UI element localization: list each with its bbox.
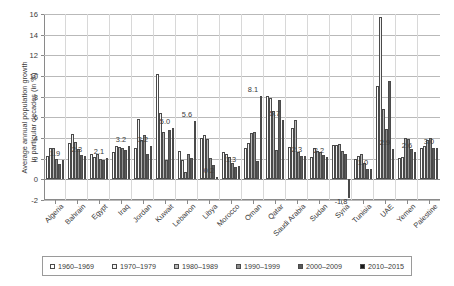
bar-groups: 1.92.32.13.23.25.05.60.21.38.15.72.32.2-… bbox=[44, 14, 440, 200]
bar-kuwait-2010–2015 bbox=[172, 128, 175, 180]
bars-container bbox=[352, 14, 374, 200]
legend-label: 2010–2015 bbox=[368, 262, 404, 271]
data-label-algeria: 1.9 bbox=[50, 149, 60, 158]
bar-jordan-2010–2015 bbox=[150, 146, 153, 179]
legend-label: 1970–1979 bbox=[120, 262, 156, 271]
data-label-tunisia: 1.0 bbox=[358, 158, 368, 167]
bar-cluster bbox=[178, 14, 197, 200]
bars-container bbox=[330, 14, 352, 200]
bar-saudi-arabia-2010–2015 bbox=[304, 156, 307, 180]
bar-cluster bbox=[288, 14, 307, 200]
x-label-oman: Oman bbox=[243, 202, 264, 223]
bar-libya-2010–2015 bbox=[216, 177, 219, 179]
bar-group-jordan: 3.2 bbox=[132, 14, 154, 200]
bars-container bbox=[374, 14, 396, 200]
bar-group-qatar: 5.7 bbox=[264, 14, 286, 200]
bar-cluster bbox=[420, 14, 439, 200]
legend-swatch-icon bbox=[360, 264, 365, 269]
bar-morocco-2010–2015 bbox=[238, 166, 241, 179]
legend-label: 1980–1989 bbox=[182, 262, 218, 271]
y-tick-label-0: 0 bbox=[34, 175, 38, 184]
chart-legend: 1960–19691970–19791980–19891990–19992000… bbox=[42, 256, 412, 276]
legend-item-1990–1999[interactable]: 1990–1999 bbox=[236, 262, 280, 271]
x-label-morocco: Morocco bbox=[215, 202, 241, 228]
x-label-tunisia: Tunisia bbox=[350, 202, 373, 225]
bar-group-libya: 0.2 bbox=[198, 14, 220, 200]
bar-group-egypt: 2.1 bbox=[88, 14, 110, 200]
data-label-jordan: 3.2 bbox=[138, 135, 148, 144]
legend-item-1960–1969[interactable]: 1960–1969 bbox=[50, 262, 94, 271]
y-tick-label-2: 2 bbox=[34, 154, 38, 163]
bar-qatar-2010–2015 bbox=[282, 120, 285, 179]
x-label-algeria: Algeria bbox=[43, 202, 66, 225]
legend-item-2010–2015[interactable]: 2010–2015 bbox=[360, 262, 404, 271]
bar-group-lebanon: 5.6 bbox=[176, 14, 198, 200]
bar-syria-2010–2015 bbox=[348, 179, 351, 198]
bar-group-tunisia: 1.0 bbox=[352, 14, 374, 200]
chart-root: Average annual population growth in part… bbox=[0, 0, 454, 286]
legend-item-1980–1989[interactable]: 1980–1989 bbox=[174, 262, 218, 271]
y-tick-label-12: 12 bbox=[30, 51, 38, 60]
bars-container bbox=[264, 14, 286, 200]
bar-syria-2000–2009 bbox=[344, 154, 347, 180]
bar-group-syria: -1,8 bbox=[330, 14, 352, 200]
y-axis-title-line1: Average annual population growth bbox=[20, 32, 29, 202]
bar-group-oman: 8.1 bbox=[242, 14, 264, 200]
legend-item-2000–2009[interactable]: 2000–2009 bbox=[298, 262, 342, 271]
bar-egypt-2010–2015 bbox=[106, 158, 109, 180]
bar-cluster bbox=[112, 14, 131, 200]
bar-group-iraq: 3.2 bbox=[110, 14, 132, 200]
bar-group-morocco: 1.3 bbox=[220, 14, 242, 200]
bar-palestine-2010–2015 bbox=[436, 148, 439, 179]
legend-swatch-icon bbox=[50, 264, 55, 269]
bars-container bbox=[396, 14, 418, 200]
data-label-bahrain: 2.3 bbox=[72, 145, 82, 154]
data-label-saudi-arabia: 2.3 bbox=[292, 145, 302, 154]
bar-cluster bbox=[222, 14, 241, 200]
data-label-qatar: 5.7 bbox=[270, 109, 280, 118]
bars-container bbox=[418, 14, 440, 200]
x-label-jordan: Jordan bbox=[131, 202, 153, 224]
bar-cluster bbox=[310, 14, 329, 200]
bar-group-sudan: 2.2 bbox=[308, 14, 330, 200]
legend-label: 1990–1999 bbox=[244, 262, 280, 271]
y-tick-label-14: 14 bbox=[30, 30, 38, 39]
y-tick-label-4: 4 bbox=[34, 134, 38, 143]
bar-cluster bbox=[46, 14, 65, 200]
bar-cluster bbox=[354, 14, 373, 200]
bars-container bbox=[154, 14, 176, 200]
bars-container bbox=[132, 14, 154, 200]
y-tick-label-6: 6 bbox=[34, 113, 38, 122]
bar-algeria-2010–2015 bbox=[62, 160, 65, 180]
bars-container bbox=[286, 14, 308, 200]
legend-swatch-icon bbox=[112, 264, 117, 269]
x-label-lebanon: Lebanon bbox=[171, 202, 198, 229]
plot-area: 1614121086420-2 1.92.32.13.23.25.05.60.2… bbox=[44, 14, 440, 200]
bars-container bbox=[176, 14, 198, 200]
bar-group-saudi-arabia: 2.3 bbox=[286, 14, 308, 200]
x-label-sudan: Sudan bbox=[308, 202, 329, 223]
y-tick-label--2: -2 bbox=[31, 196, 38, 205]
bar-cluster bbox=[266, 14, 285, 200]
bar-group-algeria: 1.9 bbox=[44, 14, 66, 200]
gridline--2 bbox=[44, 200, 440, 201]
bar-cluster bbox=[134, 14, 153, 200]
x-label-libya: Libya bbox=[201, 202, 220, 221]
bar-cluster bbox=[68, 14, 87, 200]
y-tick-mark--2 bbox=[41, 200, 44, 201]
legend-label: 2000–2009 bbox=[306, 262, 342, 271]
bar-sudan-2010–2015 bbox=[326, 157, 329, 180]
data-label-uae: 2.9 bbox=[380, 138, 390, 147]
bars-container bbox=[242, 14, 264, 200]
x-label-bahrain: Bahrain bbox=[63, 202, 87, 226]
bars-container bbox=[88, 14, 110, 200]
x-label-egypt: Egypt bbox=[90, 202, 110, 222]
y-tick-label-16: 16 bbox=[30, 10, 38, 19]
bars-container bbox=[110, 14, 132, 200]
bar-group-palestine: 3.0 bbox=[418, 14, 440, 200]
bar-cluster bbox=[156, 14, 175, 200]
legend-item-1970–1979[interactable]: 1970–1979 bbox=[112, 262, 156, 271]
x-label-syria: Syria bbox=[333, 202, 351, 220]
x-label-qatar: Qatar bbox=[266, 202, 285, 221]
data-label-iraq: 3.2 bbox=[116, 135, 126, 144]
